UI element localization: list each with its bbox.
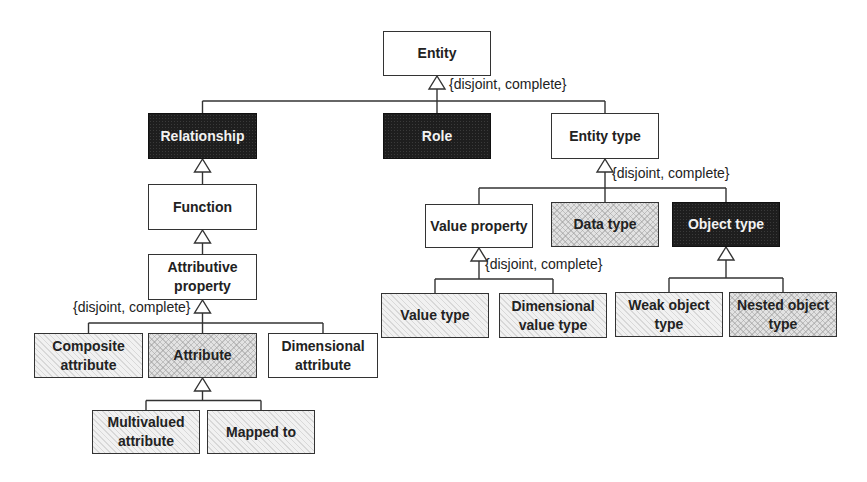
generalization-arrow-icon [195,159,211,172]
uml-diagram: EntityRelationshipRoleEntity typeFunctio… [0,0,867,482]
class-box-dimensional-value-type: Dimensional value type [499,293,607,338]
class-box-entity-type: Entity type [551,113,659,159]
class-label: Entity [418,44,457,63]
generalization-arrow-icon [718,247,734,260]
generalization-arrow-icon [195,230,211,243]
value-property-constraint: {disjoint, complete} [485,256,603,272]
class-label: Mapped to [226,423,296,442]
class-label: Attribute [173,346,231,365]
class-box-attributive-property: Attributive property [148,254,257,300]
class-box-weak-object-type: Weak object type [615,292,723,337]
class-label: Dimensional value type [500,297,606,335]
class-label: Function [173,198,232,217]
class-box-role: Role [383,113,491,159]
class-label: Value type [400,306,469,325]
class-label: Weak object type [616,296,722,334]
entity-type-constraint: {disjoint, complete} [612,165,730,181]
class-box-mapped-to: Mapped to [207,410,315,454]
class-box-entity: Entity [383,31,491,76]
class-box-data-type: Data type [551,202,659,247]
class-box-nested-object-type: Nested object type [729,292,837,337]
generalization-arrow-icon [597,159,613,172]
class-label: Relationship [160,127,244,146]
class-box-value-type: Value type [381,293,489,338]
class-box-function: Function [148,184,257,230]
generalization-arrow-icon [195,300,211,313]
class-label: Nested object type [730,296,836,334]
class-box-value-property: Value property [425,204,533,248]
class-label: Data type [573,215,636,234]
entity-constraint: {disjoint, complete} [449,76,567,92]
attributive-property-constraint: {disjoint, complete} [73,299,191,315]
class-box-dimensional-attribute: Dimensional attribute [268,333,378,378]
class-label: Entity type [569,127,641,146]
class-label: Composite attribute [35,337,142,375]
class-box-object-type: Object type [672,202,780,247]
class-label: Role [422,127,452,146]
class-label: Dimensional attribute [269,337,377,375]
generalization-arrow-icon [195,378,211,391]
class-box-multivalued-attribute: Multivalued attribute [92,410,200,454]
class-label: Value property [430,217,527,236]
generalization-arrow-icon [429,76,445,89]
class-box-relationship: Relationship [148,113,257,159]
class-label: Multivalued attribute [93,413,199,451]
class-box-composite-attribute: Composite attribute [34,333,143,378]
class-label: Object type [688,215,764,234]
class-box-attribute: Attribute [148,333,257,378]
class-label: Attributive property [149,258,256,296]
